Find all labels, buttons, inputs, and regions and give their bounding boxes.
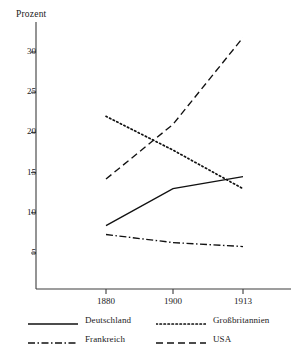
legend-item[interactable]: Deutschland <box>28 315 156 325</box>
legend-line-swatch <box>28 315 78 325</box>
legend-item[interactable]: Großbritannien <box>156 315 290 325</box>
x-axis-tick-labels: 188019001913 <box>0 0 299 320</box>
x-tick-label: 1913 <box>223 296 263 306</box>
legend-line-swatch <box>156 315 206 325</box>
x-tick-label: 1880 <box>86 296 126 306</box>
legend-line-swatch <box>156 334 206 344</box>
legend-label: Deutschland <box>85 315 131 325</box>
legend-item[interactable]: Frankreich <box>28 334 156 344</box>
x-tick-label: 1900 <box>153 296 193 306</box>
legend-label: Großbritannien <box>213 315 269 325</box>
legend-label: Frankreich <box>85 334 125 344</box>
legend-line-swatch <box>28 334 78 344</box>
legend-label: USA <box>213 334 231 344</box>
legend-item[interactable]: USA <box>156 334 290 344</box>
chart-legend: DeutschlandGroßbritannienFrankreichUSA <box>28 310 290 348</box>
chart-figure: Prozent 51015202530 188019001913 Deutsch… <box>0 0 299 361</box>
